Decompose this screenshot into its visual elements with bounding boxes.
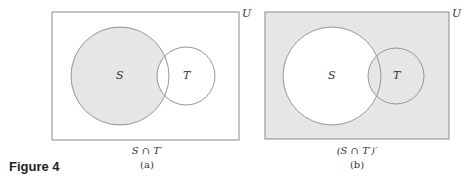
venn-panel-a	[52, 12, 239, 140]
set-s-label-b: S	[328, 69, 336, 82]
sublabel-b: (b)	[317, 159, 397, 170]
figure-label: Figure 4	[9, 159, 60, 174]
universe-label-b: U	[452, 7, 461, 20]
sublabel-a: (a)	[107, 159, 187, 170]
set-t-label-b: T	[393, 69, 400, 82]
venn-diagrams	[0, 0, 474, 186]
universe-label-a: U	[242, 7, 251, 20]
venn-panel-b	[265, 12, 449, 139]
set-s-label-a: S	[116, 69, 124, 82]
expression-caption-a: S ∩ T′	[107, 145, 187, 156]
set-t-label-a: T	[183, 69, 190, 82]
expression-caption-b: (S ∩ T′)′	[317, 145, 397, 156]
